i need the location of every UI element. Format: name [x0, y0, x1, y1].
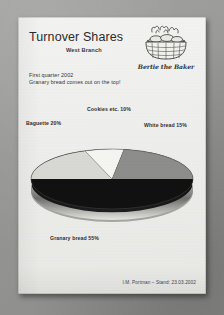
- intro-text: First quarter 2002 Granary bread comes o…: [29, 72, 121, 86]
- page-subtitle: West Branch: [66, 47, 102, 53]
- slice-label-baguette: Baguette 20%: [26, 120, 61, 126]
- intro-line-2: Granary bread comes out on the top!: [29, 79, 121, 86]
- brand-name: Bertie the Baker: [134, 63, 198, 70]
- pie-graphic: [28, 129, 196, 225]
- page-title: Turnover Shares: [29, 30, 123, 44]
- bread-basket-icon: Bertie the Baker: [134, 23, 198, 69]
- slice-label-cookies: Cookies etc. 10%: [87, 106, 131, 112]
- document-sheet: Turnover Shares West Branch: [18, 17, 206, 294]
- slice-label-white-bread: White bread 15%: [144, 122, 187, 128]
- slice-label-granary: Granary bread 55%: [50, 235, 99, 241]
- intro-line-1: First quarter 2002: [29, 72, 121, 79]
- footer-attribution: I.M. Portman – Stand: 23.03.2002: [122, 280, 196, 285]
- pie-chart: Cookies etc. 10% White bread 15% Baguett…: [18, 101, 206, 251]
- document-content: Turnover Shares West Branch: [18, 17, 206, 294]
